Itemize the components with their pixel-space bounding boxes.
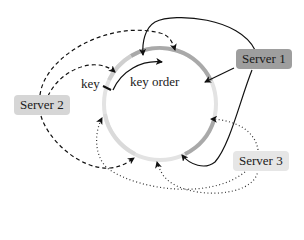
key-order-label: key order: [130, 75, 179, 88]
server-2-node: Server 2: [14, 95, 70, 115]
ring-segment-server2-lower: [105, 114, 135, 154]
ring-segment-server2: [109, 56, 131, 80]
edge-server3-right: [211, 119, 258, 150]
ring-segment-server1-lower: [185, 120, 214, 154]
server-1-node: Server 1: [236, 49, 292, 69]
key-label: key: [81, 77, 100, 90]
edge-server3-left: [97, 118, 245, 189]
server-3-node: Server 3: [233, 151, 289, 171]
